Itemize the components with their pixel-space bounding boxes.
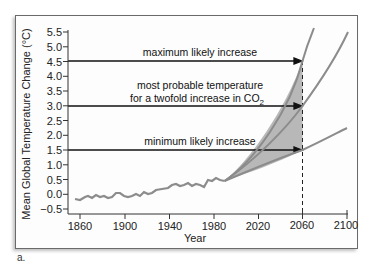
- x-axis-title: Year: [184, 232, 207, 244]
- svg-text:2060: 2060: [290, 219, 314, 231]
- y-ticks: [63, 32, 68, 209]
- annotation-probable-line1: most probable temperature: [137, 79, 263, 91]
- figure-caption: a.: [17, 252, 25, 263]
- annotation-max: maximum likely increase: [143, 46, 258, 58]
- y-axis-title: Mean Global Temperature Change (°C): [20, 28, 32, 219]
- svg-text:0.0: 0.0: [47, 188, 62, 200]
- svg-text:4.0: 4.0: [47, 70, 62, 82]
- x-tick-labels: 1860 1900 1940 1980 2020 2060 2100: [68, 219, 358, 232]
- annotation-probable-line2: for a twofold increase in CO2: [130, 92, 265, 107]
- svg-text:2.5: 2.5: [47, 115, 62, 127]
- svg-text:5.0: 5.0: [47, 41, 62, 53]
- svg-text:2.0: 2.0: [47, 129, 62, 141]
- svg-text:2020: 2020: [246, 220, 270, 232]
- chart-svg: 5.5 5.0 4.5 4.0 3.5 3.0 2.5 2.0 1.5 1.0 …: [0, 0, 373, 265]
- y-tick-labels: 5.5 5.0 4.5 4.0 3.5 3.0 2.5 2.0 1.5 1.0 …: [40, 26, 62, 215]
- svg-text:1940: 1940: [158, 220, 182, 232]
- svg-text:1.0: 1.0: [47, 159, 62, 171]
- svg-text:4.5: 4.5: [47, 56, 62, 68]
- svg-text:1.5: 1.5: [47, 144, 62, 156]
- svg-text:3.0: 3.0: [47, 100, 62, 112]
- svg-text:−0.5: −0.5: [40, 203, 62, 215]
- svg-text:1980: 1980: [202, 220, 226, 232]
- annotation-min: minimum likely increase: [144, 135, 256, 147]
- svg-text:0.5: 0.5: [47, 174, 62, 186]
- svg-text:1860: 1860: [68, 220, 92, 232]
- svg-text:1900: 1900: [113, 220, 137, 232]
- svg-text:3.5: 3.5: [47, 85, 62, 97]
- svg-text:5.5: 5.5: [47, 26, 62, 38]
- observed-temperature-line: [75, 178, 225, 200]
- svg-text:2100: 2100: [334, 219, 358, 231]
